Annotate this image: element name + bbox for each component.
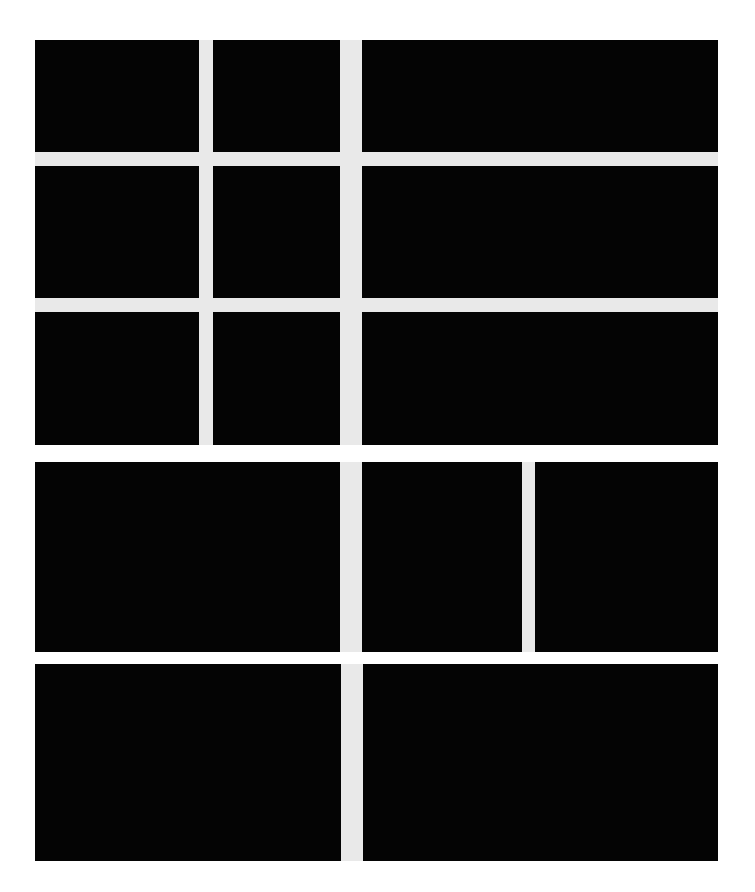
panel-r5c2[interactable] (363, 664, 718, 861)
panel-r1c2[interactable] (213, 40, 340, 152)
panel-r2c2[interactable] (213, 166, 340, 298)
panel-r3c2[interactable] (213, 312, 340, 445)
panel-r1c1[interactable] (35, 40, 199, 152)
screenshot-canvas (0, 0, 755, 892)
panel-r5c1[interactable] (35, 664, 341, 861)
panel-r4c1[interactable] (35, 462, 340, 652)
panel-r2c3[interactable] (362, 166, 718, 298)
panel-r4c3[interactable] (535, 462, 718, 652)
panel-r3c3[interactable] (362, 312, 718, 445)
panel-r4c2[interactable] (362, 462, 522, 652)
panel-r1c3[interactable] (362, 40, 718, 152)
panel-r3c1[interactable] (35, 312, 199, 445)
panel-r2c1[interactable] (35, 166, 199, 298)
